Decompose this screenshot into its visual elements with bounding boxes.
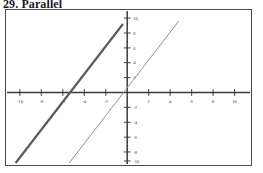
x-tick-label: -2 — [104, 99, 109, 104]
x-tick-label: -8 — [39, 99, 44, 104]
y-tick-label: 8 — [133, 31, 136, 36]
y-tick-label: 6 — [133, 46, 136, 51]
x-tick-label: 2 — [148, 99, 151, 104]
x-tick-label: 10 — [232, 99, 237, 104]
y-tick-label: 10 — [133, 16, 138, 21]
y-tick-label: -2 — [133, 105, 138, 110]
line-series-1 — [16, 24, 123, 163]
x-tick-label: 4 — [169, 99, 172, 104]
parallel-lines-graph: -10 -8 -6 -4 -2 2 4 6 8 10 10 8 6 4 2 -2… — [5, 9, 252, 166]
y-tick-label: -6 — [133, 135, 138, 140]
x-tick-label: 6 — [191, 99, 194, 104]
x-tick-label: -4 — [82, 99, 87, 104]
y-tick-label: -10 — [133, 159, 140, 164]
coordinate-plane: -10 -8 -6 -4 -2 2 4 6 8 10 10 8 6 4 2 -2… — [6, 10, 251, 165]
y-axis-tick-labels: 10 8 6 4 2 -2 -4 -6 -8 -10 — [133, 16, 140, 164]
y-tick-label: -8 — [133, 150, 138, 155]
x-tick-label: -10 — [17, 99, 24, 104]
x-tick-label: 8 — [212, 99, 215, 104]
y-tick-label: -4 — [133, 120, 138, 125]
y-tick-label: 4 — [133, 61, 136, 66]
